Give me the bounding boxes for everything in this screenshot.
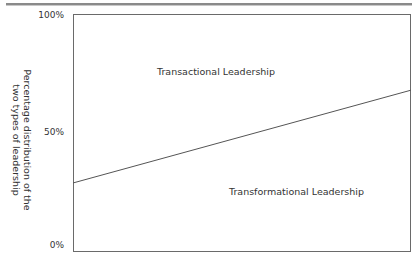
transactional-leadership-label: Transactional Leadership [157, 66, 275, 77]
boundary-line [0, 0, 416, 260]
transformational-leadership-label: Transformational Leadership [229, 186, 364, 197]
